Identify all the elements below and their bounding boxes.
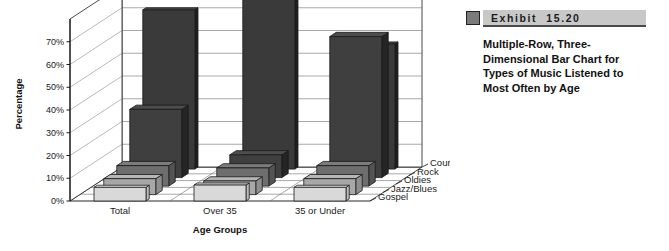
exhibit-title: Exhibit 15.20 xyxy=(483,12,581,24)
y-axis-tick-label: 10% xyxy=(46,173,64,183)
exhibit-number: 15.20 xyxy=(546,12,580,24)
bar-gospel-35-or-under-front xyxy=(294,187,346,201)
chart-canvas: 0%10%20%30%40%50%60%70%CountryRockOldies… xyxy=(0,0,450,251)
y-axis-title: Percentage xyxy=(13,78,24,129)
exhibit-caption: Multiple-Row, Three-Dimensional Bar Char… xyxy=(483,37,643,95)
y-axis-tick-label: 30% xyxy=(46,128,64,138)
category-label-total: Total xyxy=(110,205,130,216)
bar-country-over-35-front xyxy=(243,0,295,169)
bar-gospel-35-or-under-side xyxy=(346,185,349,201)
bar-oldies-total-top xyxy=(117,161,175,165)
x-axis-title: Age Groups xyxy=(193,224,247,235)
y-axis-tick-label: 50% xyxy=(46,82,64,92)
exhibit-header-underline xyxy=(483,25,646,27)
exhibit-label: Exhibit xyxy=(491,12,537,24)
bar-gospel-total-side xyxy=(146,185,149,201)
y-axis-tick-label: 20% xyxy=(46,151,64,161)
category-label-over-35: Over 35 xyxy=(203,205,237,216)
exhibit-swatch-icon xyxy=(466,11,480,25)
y-axis-tick-label: 0% xyxy=(51,196,64,206)
y-axis-tick-label: 40% xyxy=(46,105,64,115)
exhibit-header: Exhibit 15.20 xyxy=(466,10,646,27)
bar-oldies-over-35-top xyxy=(217,164,275,168)
bar-rock-over-35-top xyxy=(230,151,288,155)
bar-chart-3d: 0%10%20%30%40%50%60%70%CountryRockOldies… xyxy=(0,0,450,251)
bar-jazz-blues-total-top xyxy=(104,174,162,178)
category-label-35-or-under: 35 or Under xyxy=(295,205,345,216)
row-label-gospel: Gospel xyxy=(378,191,408,202)
bar-rock-35-or-under-top xyxy=(330,32,388,36)
bar-country-over-35-side xyxy=(295,0,298,169)
bar-country-total-side xyxy=(195,8,198,169)
y-axis-tick-label: 70% xyxy=(46,37,64,47)
bar-oldies-35-or-under-top xyxy=(317,161,375,165)
bar-jazz-blues-35-or-under-top xyxy=(304,174,362,178)
exhibit-panel: Exhibit 15.20 Multiple-Row, Three-Dimens… xyxy=(450,0,669,251)
chart-left-wall xyxy=(70,0,122,201)
bar-gospel-over-35-side xyxy=(246,183,249,201)
bar-country-35-or-under-side xyxy=(395,42,398,169)
bar-jazz-blues-over-35-top xyxy=(204,177,262,181)
bar-rock-total-top xyxy=(130,105,188,109)
y-axis-tick-label: 60% xyxy=(46,60,64,70)
bar-rock-35-or-under-front xyxy=(330,37,382,178)
bar-rock-total-side xyxy=(182,105,188,177)
exhibit-header-bar: Exhibit 15.20 xyxy=(483,10,646,25)
bar-gospel-total-front xyxy=(94,187,146,201)
bar-rock-35-or-under-side xyxy=(382,32,388,177)
exhibit-figure: 0%10%20%30%40%50%60%70%CountryRockOldies… xyxy=(0,0,669,251)
bar-gospel-over-35-front xyxy=(194,185,246,201)
